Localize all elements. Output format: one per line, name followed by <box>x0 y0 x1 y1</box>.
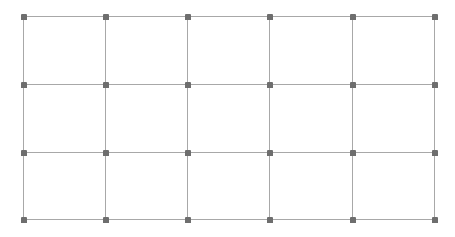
grid-node-marker[interactable] <box>103 14 109 20</box>
grid-node-marker[interactable] <box>267 14 273 20</box>
grid-node-marker[interactable] <box>350 217 356 223</box>
grid-node-marker[interactable] <box>432 82 438 88</box>
grid-node-marker[interactable] <box>432 14 438 20</box>
grid-node-marker[interactable] <box>267 82 273 88</box>
grid-node-marker[interactable] <box>432 217 438 223</box>
grid-node-marker[interactable] <box>103 150 109 156</box>
grid-node-marker[interactable] <box>21 82 27 88</box>
grid-column-line <box>105 16 106 220</box>
grid-node-marker[interactable] <box>350 150 356 156</box>
grid-row-line <box>23 84 435 85</box>
grid-diagram <box>0 0 455 237</box>
grid-row-line <box>23 16 435 17</box>
grid-column-line <box>269 16 270 220</box>
grid-node-marker[interactable] <box>21 150 27 156</box>
grid-node-marker[interactable] <box>350 82 356 88</box>
grid-node-marker[interactable] <box>185 217 191 223</box>
grid-column-line <box>352 16 353 220</box>
grid-node-marker[interactable] <box>103 217 109 223</box>
grid-row-line <box>23 152 435 153</box>
grid-node-marker[interactable] <box>103 82 109 88</box>
grid-node-marker[interactable] <box>267 217 273 223</box>
grid-node-marker[interactable] <box>21 217 27 223</box>
grid-node-marker[interactable] <box>267 150 273 156</box>
grid-node-marker[interactable] <box>185 82 191 88</box>
grid-node-marker[interactable] <box>21 14 27 20</box>
grid-column-line <box>187 16 188 220</box>
grid-node-marker[interactable] <box>350 14 356 20</box>
grid-node-marker[interactable] <box>432 150 438 156</box>
grid-node-marker[interactable] <box>185 150 191 156</box>
grid-row-line <box>23 219 435 220</box>
grid-column-line <box>23 16 24 220</box>
grid-node-marker[interactable] <box>185 14 191 20</box>
grid-column-line <box>434 16 435 220</box>
